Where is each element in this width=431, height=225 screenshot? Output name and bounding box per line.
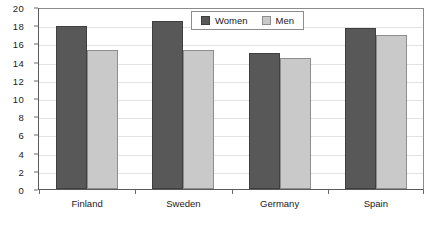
- x-axis-category-label: Sweden: [166, 198, 200, 209]
- bar-men: [183, 50, 214, 189]
- men-swatch-icon: [262, 16, 271, 25]
- bar-women: [249, 53, 280, 190]
- x-axis-tick-mark: [423, 190, 424, 194]
- bar-group: [345, 9, 407, 189]
- y-axis-tick-label: 2: [18, 166, 24, 177]
- y-axis-tick-label: 0: [18, 185, 24, 196]
- plot-area: [39, 8, 424, 190]
- x-axis-tick-mark: [39, 190, 40, 194]
- bar-women: [152, 21, 183, 189]
- y-axis-tick-label: 6: [18, 130, 24, 141]
- y-axis-tick-label: 10: [13, 94, 24, 105]
- y-axis-tick-label: 18: [13, 21, 24, 32]
- x-axis: FinlandSwedenGermanySpain: [39, 190, 424, 225]
- bar-men: [87, 50, 118, 189]
- x-axis-category-label: Germany: [260, 198, 299, 209]
- bar-men: [376, 35, 407, 189]
- x-axis-tick-mark: [135, 190, 136, 194]
- bar-chart: 02468101214161820 FinlandSwedenGermanySp…: [0, 0, 431, 225]
- y-axis-tick-label: 12: [13, 75, 24, 86]
- y-axis-tick-label: 8: [18, 112, 24, 123]
- bar-group: [56, 9, 118, 189]
- bar-women: [56, 26, 87, 189]
- x-axis-tick-mark: [232, 190, 233, 194]
- y-axis-tick-label: 14: [13, 57, 24, 68]
- bars-layer: [39, 9, 423, 189]
- women-swatch-icon: [201, 16, 210, 25]
- chart-legend: WomenMen: [191, 11, 304, 30]
- legend-label: Men: [276, 15, 294, 26]
- x-axis-category-label: Finland: [72, 198, 103, 209]
- legend-entry-women: Women: [201, 15, 248, 26]
- y-axis-tick-label: 16: [13, 39, 24, 50]
- x-axis-category-label: Spain: [364, 198, 388, 209]
- bar-women: [345, 28, 376, 189]
- bar-group: [249, 9, 311, 189]
- legend-entry-men: Men: [262, 15, 294, 26]
- bar-men: [280, 58, 311, 189]
- x-axis-tick-mark: [328, 190, 329, 194]
- bar-group: [152, 9, 214, 189]
- y-axis-tick-label: 4: [18, 148, 24, 159]
- y-axis: 02468101214161820: [0, 0, 34, 225]
- legend-label: Women: [215, 15, 248, 26]
- y-axis-tick-label: 20: [13, 3, 24, 14]
